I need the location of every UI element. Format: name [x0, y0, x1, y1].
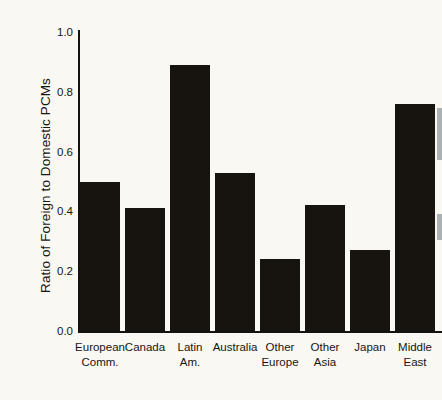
bar	[395, 104, 435, 331]
x-axis-tick-labels: European Comm.CanadaLatin Am.AustraliaOt…	[0, 340, 442, 396]
bar	[350, 250, 390, 331]
bar	[80, 182, 120, 332]
bar	[260, 259, 300, 331]
scan-artifact	[437, 214, 442, 240]
bar-chart-figure: Ratio of Foreign to Domestic PCMs 0.00.2…	[0, 0, 442, 400]
bar	[125, 208, 165, 331]
y-tick-label: 0.4	[43, 205, 73, 217]
x-tick-label: Middle East	[375, 340, 442, 369]
scan-artifact	[437, 108, 442, 160]
bar	[170, 65, 210, 331]
x-axis-line	[78, 331, 442, 333]
y-tick-label: 0.0	[43, 325, 73, 337]
bar	[215, 173, 255, 331]
y-tick-label: 1.0	[43, 26, 73, 38]
plot-area	[80, 32, 442, 331]
y-tick-label: 0.6	[43, 146, 73, 158]
bar	[305, 205, 345, 331]
y-tick-label: 0.8	[43, 86, 73, 98]
y-tick-label: 0.2	[43, 265, 73, 277]
